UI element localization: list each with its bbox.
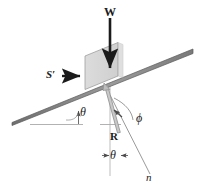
physics-diagram: W S′ θ R ϕ θ n [0, 0, 204, 193]
normal-label: n [146, 172, 152, 183]
applied-force-label: S′ [46, 69, 55, 80]
friction-angle-label: ϕ [136, 112, 142, 124]
diagram-canvas [0, 0, 204, 193]
weight-label: W [104, 6, 116, 18]
resultant-label: R [110, 131, 118, 142]
incline-angle-label: θ [80, 106, 86, 118]
base-angle-label: θ [110, 149, 116, 161]
resultant-vector [103, 83, 120, 133]
incline-angle-arc [66, 111, 79, 124]
